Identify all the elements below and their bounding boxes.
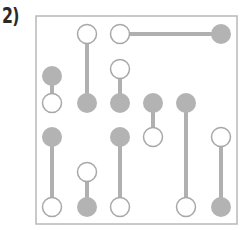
nodes-layer xyxy=(42,24,231,217)
hollow-node-icon xyxy=(177,198,196,217)
filled-node-icon xyxy=(42,127,62,147)
puzzle-board xyxy=(0,0,251,230)
hollow-node-icon xyxy=(111,60,130,79)
hollow-node-icon xyxy=(78,25,97,44)
hollow-node-icon xyxy=(111,198,130,217)
filled-node-icon xyxy=(211,197,231,217)
hollow-node-icon xyxy=(78,163,97,182)
hollow-node-icon xyxy=(111,25,130,44)
filled-node-icon xyxy=(42,66,62,86)
hollow-node-icon xyxy=(212,128,231,147)
filled-node-icon xyxy=(110,127,130,147)
hollow-node-icon xyxy=(43,94,62,113)
links-layer xyxy=(52,34,221,207)
filled-node-icon xyxy=(77,93,97,113)
filled-node-icon xyxy=(77,197,97,217)
filled-node-icon xyxy=(143,93,163,113)
hollow-node-icon xyxy=(43,198,62,217)
filled-node-icon xyxy=(211,24,231,44)
board-frame xyxy=(36,16,237,224)
filled-node-icon xyxy=(176,93,196,113)
filled-node-icon xyxy=(110,93,130,113)
hollow-node-icon xyxy=(144,128,163,147)
